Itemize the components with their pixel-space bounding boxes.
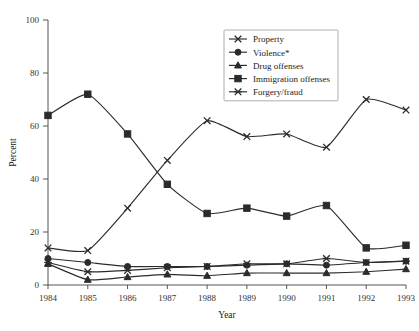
x-tick-label: 1984 [39,293,58,303]
series-line-property [48,99,406,252]
series-immigration-offenses-square-marker [403,242,409,248]
line-chart: 0204060801001984198519861987198819891990… [0,0,419,331]
x-tick-label: 1987 [158,293,177,303]
series-immigration-offenses-square-marker [204,210,210,216]
y-tick-label: 20 [30,227,40,237]
x-tick-label: 1993 [397,293,416,303]
legend-label-0: Property [253,34,284,44]
x-tick-label: 1986 [119,293,138,303]
series-immigration-offenses-square-marker [283,213,289,219]
chart-container: 0204060801001984198519861987198819891990… [0,0,419,331]
y-tick-label: 100 [26,15,40,25]
y-axis-title: Percent [8,138,18,167]
x-tick-label: 1991 [317,293,335,303]
series-immigration-offenses-square-marker [124,131,130,137]
series-immigration-offenses-square-marker [363,245,369,251]
x-tick-label: 1992 [357,293,375,303]
series-immigration-offenses-square-marker [244,205,250,211]
series-immigration-offenses-square-marker [164,181,170,187]
series-drug-offenses-triangle-marker [403,266,410,272]
x-tick-label: 1988 [198,293,217,303]
x-tick-label: 1985 [79,293,98,303]
series-line-forgery-fraud [48,258,406,271]
legend-label-2: Drug offenses [253,61,304,71]
y-tick-label: 40 [30,174,40,184]
x-tick-label: 1990 [278,293,297,303]
y-tick-label: 80 [30,68,40,78]
legend-label-4: Forgery/fraud [253,87,303,97]
series-violence-circle-marker [323,262,329,268]
series-immigration-offenses-square-marker [45,112,51,118]
legend-label-1: Violence* [253,48,290,58]
series-line-immigration-offenses [48,94,406,249]
legend-label-3: Immigration offenses [253,74,331,84]
y-tick-label: 0 [35,280,40,290]
series-immigration-offenses-square-marker [85,91,91,97]
series-immigration-offenses-square-marker [323,202,329,208]
y-tick-label: 60 [30,121,40,131]
series-violence-circle-marker [85,259,91,265]
legend-item-1-circle-marker [235,49,241,55]
x-axis-title: Year [218,310,236,320]
legend-item-3-square-marker [235,75,241,81]
x-tick-label: 1989 [238,293,257,303]
